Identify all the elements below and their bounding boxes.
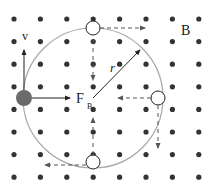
field-dot bbox=[11, 16, 16, 21]
field-dot bbox=[11, 62, 16, 67]
field-dot bbox=[64, 84, 69, 89]
field-dot bbox=[170, 129, 175, 134]
ghost-particle-right bbox=[151, 91, 165, 105]
field-dot bbox=[64, 39, 69, 44]
field-dot bbox=[196, 62, 201, 67]
field-dot bbox=[196, 16, 201, 21]
field-dot bbox=[38, 175, 43, 180]
field-dot bbox=[64, 107, 69, 112]
field-dot bbox=[64, 152, 69, 157]
field-dot bbox=[143, 84, 148, 89]
field-label: B bbox=[181, 23, 190, 38]
ghost-particle-bottom bbox=[86, 155, 100, 169]
field-dot bbox=[117, 175, 122, 180]
field-dot bbox=[117, 39, 122, 44]
field-dot bbox=[64, 129, 69, 134]
field-dot bbox=[64, 62, 69, 67]
field-dot bbox=[38, 39, 43, 44]
field-dot bbox=[11, 152, 16, 157]
field-dot bbox=[170, 175, 175, 180]
field-dot bbox=[11, 84, 16, 89]
field-dot bbox=[117, 152, 122, 157]
force-subscript: B bbox=[87, 102, 92, 111]
field-dot bbox=[38, 129, 43, 134]
field-dot bbox=[143, 175, 148, 180]
field-dot bbox=[64, 16, 69, 21]
field-dot bbox=[143, 107, 148, 112]
field-dot bbox=[170, 62, 175, 67]
field-dot bbox=[170, 39, 175, 44]
field-dot bbox=[170, 84, 175, 89]
field-dot bbox=[143, 129, 148, 134]
field-dot bbox=[170, 16, 175, 21]
field-dot bbox=[11, 107, 16, 112]
field-dot bbox=[196, 129, 201, 134]
field-dot bbox=[64, 175, 69, 180]
field-dot bbox=[38, 62, 43, 67]
field-dot bbox=[196, 107, 201, 112]
ghost-particle-top bbox=[86, 21, 100, 35]
field-dot bbox=[196, 152, 201, 157]
field-dot bbox=[117, 107, 122, 112]
field-dot bbox=[117, 16, 122, 21]
velocity-label: v bbox=[22, 29, 28, 43]
field-dot bbox=[196, 84, 201, 89]
force-label: F bbox=[76, 91, 84, 106]
field-dot bbox=[11, 39, 16, 44]
field-dot bbox=[91, 84, 96, 89]
field-dot bbox=[117, 62, 122, 67]
field-dot bbox=[91, 175, 96, 180]
field-dot bbox=[143, 62, 148, 67]
field-dot bbox=[143, 16, 148, 21]
field-dot bbox=[196, 39, 201, 44]
field-dot bbox=[38, 16, 43, 21]
field-dot bbox=[170, 152, 175, 157]
magnetic-field-diagram: r v F B B bbox=[0, 0, 216, 188]
charged-particle bbox=[16, 90, 32, 106]
radius-label: r bbox=[110, 60, 116, 75]
field-dot bbox=[11, 129, 16, 134]
radius-arrow bbox=[93, 50, 140, 98]
field-dot bbox=[143, 39, 148, 44]
field-dot bbox=[196, 175, 201, 180]
field-dot bbox=[170, 107, 175, 112]
field-dot bbox=[117, 84, 122, 89]
field-dot bbox=[117, 129, 122, 134]
field-dot bbox=[38, 152, 43, 157]
field-dot bbox=[143, 152, 148, 157]
field-dot bbox=[38, 107, 43, 112]
diagram-canvas: r v F B B bbox=[0, 0, 216, 188]
field-dot bbox=[38, 84, 43, 89]
field-dot bbox=[11, 175, 16, 180]
